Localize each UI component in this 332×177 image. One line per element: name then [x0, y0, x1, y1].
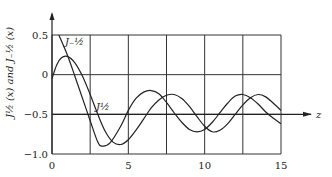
y-axis-title: J½ (x) and J₋½ (x)	[4, 27, 15, 120]
grid-lines	[52, 35, 281, 154]
y-axis-title-text: J½ (x) and J₋½ (x)	[4, 27, 15, 120]
x-tick-label: 5	[125, 160, 131, 171]
y-tick-label: −0.5	[24, 109, 48, 120]
bessel-plot: 0510150.50−0.5−1.0 J½ (x) and J₋½ (x) z …	[0, 0, 332, 177]
x-tick-label: 10	[198, 160, 211, 171]
curve-label-j-minus-half: J₋½	[63, 36, 84, 47]
y-tick-label: 0	[42, 69, 48, 80]
y-axis-arrow-icon	[50, 12, 55, 20]
y-tick-label: 0.5	[32, 30, 48, 41]
curve-label-j-half: J½	[94, 101, 110, 112]
series-line-j-minus-half	[59, 35, 281, 146]
z-axis-arrow-icon	[303, 112, 312, 117]
x-tick-label: 15	[275, 160, 288, 171]
y-tick-label: −1.0	[24, 149, 48, 160]
chart-figure: 0510150.50−0.5−1.0 J½ (x) and J₋½ (x) z …	[0, 0, 332, 177]
x-axis-label: z	[315, 109, 322, 120]
x-tick-label: 0	[49, 160, 55, 171]
axes	[50, 12, 313, 154]
